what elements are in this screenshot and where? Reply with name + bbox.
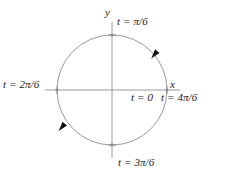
dot-bottom (110, 143, 113, 146)
y-axis-label: y (105, 7, 110, 18)
label-t-4pi-over-6: t = 4π/6 (161, 92, 197, 103)
label-t-pi-over-6: t = π/6 (117, 16, 148, 27)
parametric-circle-figure: y x t = π/6 t = 2π/6 t = 0 t = 4π/6 t = … (0, 0, 226, 176)
arrow-lower-left-icon (56, 122, 67, 133)
dot-top (110, 33, 113, 36)
label-t-zero: t = 0 (131, 92, 153, 103)
label-t-3pi-over-6: t = 3π/6 (118, 157, 154, 168)
x-axis-label: x (170, 79, 175, 90)
dot-left (55, 88, 58, 91)
label-t-2pi-over-6: t = 2π/6 (3, 79, 39, 90)
